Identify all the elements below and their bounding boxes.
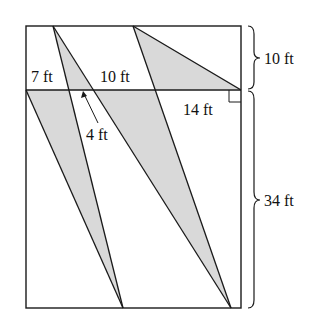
label-7ft: 7 ft (31, 68, 53, 85)
label-14ft: 14 ft (183, 101, 213, 118)
right-angle-marker (229, 90, 241, 102)
label-10ft-height: 10 ft (264, 50, 294, 67)
arrow-head-icon (81, 91, 87, 98)
brace-top (248, 26, 260, 89)
label-34ft-height: 34 ft (264, 192, 294, 209)
brace-bottom (248, 91, 260, 308)
geometry-diagram: 7 ft 10 ft 14 ft 4 ft 10 ft 34 ft (0, 0, 321, 324)
label-10ft-top: 10 ft (100, 68, 130, 85)
pointer-arrow (84, 94, 98, 123)
label-4ft: 4 ft (86, 126, 108, 143)
